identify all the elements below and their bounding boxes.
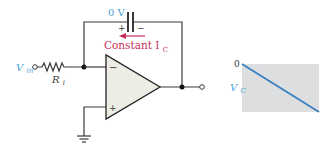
input-label: V in [16, 62, 34, 75]
current-label: Constant I C [104, 39, 168, 54]
ground-icon [77, 136, 91, 142]
resistor-icon [37, 63, 84, 71]
input-terminal [33, 65, 38, 70]
graph-y-label-sub: C [240, 87, 246, 95]
capacitor-minus-sign: − [137, 23, 145, 33]
capacitor [128, 12, 133, 32]
graph-y-label-main: V [230, 82, 239, 93]
graph-zero-label: 0 [234, 59, 240, 69]
capacitor-plus-sign: + [118, 23, 126, 33]
integrator-diagram: 0 V + − Constant I C V in R i − + [0, 0, 334, 156]
ground-wire [84, 107, 106, 136]
current-label-main: Constant I [104, 39, 159, 51]
resistor-label-main: R [51, 74, 60, 85]
current-label-sub: C [163, 46, 168, 54]
output-terminal [200, 85, 205, 90]
vc-graph: 0 V C [230, 59, 319, 112]
resistor-label: R i [51, 74, 65, 87]
opamp-inverting-sign: − [109, 62, 117, 73]
junction-dot-output [180, 85, 185, 90]
resistor-label-sub: i [63, 79, 65, 87]
opamp-noninverting-sign: + [109, 103, 117, 113]
capacitor-voltage-label: 0 V [108, 7, 126, 18]
input-label-main: V [16, 62, 25, 73]
